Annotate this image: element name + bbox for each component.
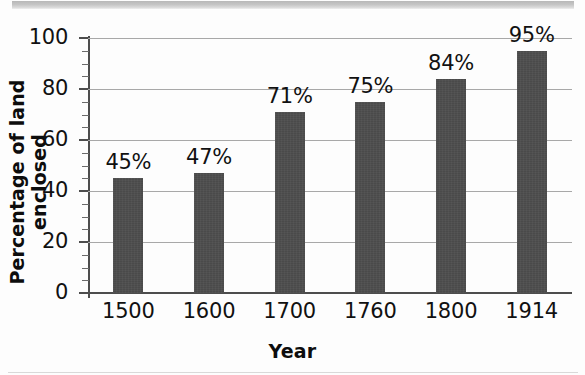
x-tick-label-1500: 1500: [83, 301, 173, 322]
gridline-60: [88, 140, 572, 141]
bar-1600: [194, 173, 224, 293]
bar-1914: [517, 51, 547, 293]
bar-value-label-1600: 47%: [169, 147, 249, 168]
bar-value-label-1700: 71%: [250, 86, 330, 107]
gridline-20: [88, 242, 572, 243]
bar-value-label-1800: 84%: [411, 53, 491, 74]
x-tick-label-1700: 1700: [245, 301, 335, 322]
bar-1700: [275, 112, 305, 293]
y-tick-label-80: 80: [42, 78, 68, 99]
x-tick-label-1800: 1800: [406, 301, 496, 322]
bar-chart: Percentage of land enclosed 020406080100…: [0, 0, 585, 375]
x-tick-label-1914: 1914: [487, 301, 577, 322]
x-tick-label-1600: 1600: [164, 301, 254, 322]
y-tick-label-60: 60: [42, 129, 68, 150]
y-tick-label-100: 100: [29, 27, 68, 48]
bar-1800: [436, 79, 466, 293]
y-tick-label-0: 0: [55, 282, 68, 303]
x-axis-title: Year: [0, 340, 585, 362]
y-tick-label-20: 20: [42, 231, 68, 252]
bar-value-label-1760: 75%: [330, 76, 410, 97]
y-tick-label-40: 40: [42, 180, 68, 201]
gridline-40: [88, 191, 572, 192]
bar-value-label-1500: 45%: [88, 152, 168, 173]
bar-value-label-1914: 95%: [492, 25, 572, 46]
bar-1760: [355, 102, 385, 293]
bar-1500: [113, 178, 143, 293]
x-tick-label-1760: 1760: [325, 301, 415, 322]
